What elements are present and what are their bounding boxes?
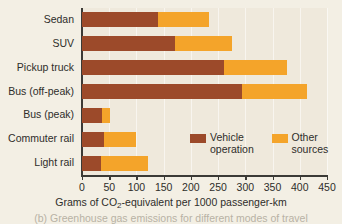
x-axis-tick xyxy=(273,176,274,180)
x-axis-tick xyxy=(245,176,246,180)
x-axis-tick-label: 450 xyxy=(318,181,336,193)
bar-row xyxy=(82,60,287,75)
bar-segment-other-sources xyxy=(102,108,110,123)
x-axis-tick xyxy=(136,176,137,180)
bar-segment-vehicle-operation xyxy=(82,84,242,99)
y-axis-label: Bus (off-peak) xyxy=(8,86,74,97)
x-axis-title: Grams of CO2-equivalent per 1000 passeng… xyxy=(0,196,342,208)
bar-segment-other-sources xyxy=(101,156,148,171)
bar-segment-vehicle-operation xyxy=(82,108,102,123)
x-axis-tick xyxy=(327,176,328,180)
bar-segment-other-sources xyxy=(224,60,288,75)
x-axis-tick-label: 100 xyxy=(128,181,146,193)
bar-row xyxy=(82,132,136,147)
bar-row xyxy=(82,156,148,171)
bar-row xyxy=(82,36,232,51)
y-axis-label: Commuter rail xyxy=(8,133,74,144)
x-axis-tick xyxy=(109,176,110,180)
bar-row xyxy=(82,108,110,123)
y-axis-label: Light rail xyxy=(34,157,74,168)
bar-segment-vehicle-operation xyxy=(82,12,158,27)
legend-entry: Vehicle operation xyxy=(190,132,261,155)
x-axis-title-prefix: Grams of CO xyxy=(55,196,117,208)
x-axis-tick-label: 400 xyxy=(291,181,309,193)
figure-caption-partial: (b) Greenhouse gas emissions for differe… xyxy=(0,212,342,224)
x-axis-tick-label: 300 xyxy=(237,181,255,193)
x-axis-tick-labels: 050100150200250300350400450 xyxy=(0,181,342,195)
bar-segment-vehicle-operation xyxy=(82,156,101,171)
x-axis-tick-label: 250 xyxy=(209,181,227,193)
bar-segment-vehicle-operation xyxy=(82,60,224,75)
legend-entry: Other sources xyxy=(272,132,342,155)
legend-swatch-other xyxy=(272,134,288,143)
x-axis-tick-label: 350 xyxy=(264,181,282,193)
y-axis-label: Pickup truck xyxy=(17,62,74,73)
bar-segment-other-sources xyxy=(175,36,232,51)
bar-segment-other-sources xyxy=(242,84,307,99)
legend-label: Other sources xyxy=(292,132,342,155)
x-axis-tick-label: 200 xyxy=(182,181,200,193)
y-axis-label: Sedan xyxy=(44,14,74,25)
bar-segment-other-sources xyxy=(158,12,209,27)
x-axis-tick xyxy=(218,176,219,180)
x-axis-tick xyxy=(300,176,301,180)
x-axis-tick-label: 150 xyxy=(155,181,173,193)
y-axis-label: Bus (peak) xyxy=(23,109,74,120)
x-axis-tick xyxy=(164,176,165,180)
y-axis-label: SUV xyxy=(52,38,74,49)
bar-row xyxy=(82,12,209,27)
legend-swatch-vehicle xyxy=(190,134,206,143)
legend-label: Vehicle operation xyxy=(210,132,261,155)
bar-segment-vehicle-operation xyxy=(82,132,104,147)
x-axis-ticks xyxy=(82,176,327,180)
x-axis-title-subscript: 2 xyxy=(117,201,121,210)
x-axis-tick-label: 0 xyxy=(79,181,85,193)
chart-legend: Vehicle operationOther sources xyxy=(190,132,342,155)
x-axis-tick-label: 50 xyxy=(103,181,115,193)
emissions-bar-chart: SedanSUVPickup truckBus (off-peak)Bus (p… xyxy=(0,0,342,224)
bar-segment-other-sources xyxy=(104,132,136,147)
x-axis-tick xyxy=(82,176,83,180)
y-axis-category-labels: SedanSUVPickup truckBus (off-peak)Bus (p… xyxy=(0,8,78,175)
x-axis-tick xyxy=(191,176,192,180)
bar-row xyxy=(82,84,307,99)
bar-segment-vehicle-operation xyxy=(82,36,175,51)
x-axis-title-suffix: -equivalent per 1000 passenger-km xyxy=(122,196,287,208)
